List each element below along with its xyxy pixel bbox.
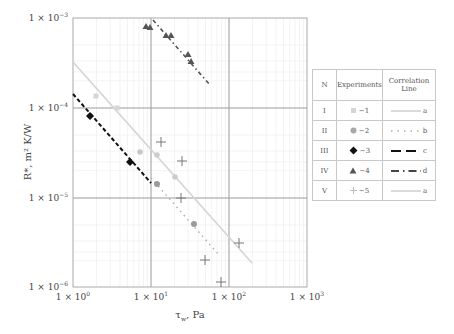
legend-n: III: [313, 141, 337, 161]
grid-major: [73, 18, 307, 287]
series-V-markers: [156, 137, 244, 287]
legend-n: II: [313, 121, 337, 141]
legend-experiment: −4: [337, 161, 383, 181]
legend-experiment: −3: [337, 141, 383, 161]
svg-text:1 × 10−3: 1 × 10−3: [29, 11, 68, 23]
dotted-line-icon: [391, 129, 421, 133]
square-marker-icon: [350, 107, 357, 114]
circle-marker-icon: [350, 127, 357, 134]
legend-line-label: b: [423, 127, 427, 135]
legend-exp-label: −3: [360, 147, 370, 155]
legend-exp-label: −2: [359, 127, 369, 135]
legend-line: c: [382, 141, 435, 161]
legend-n: IV: [313, 161, 337, 181]
legend-experiment: −2: [337, 121, 383, 141]
diamond-marker-icon: [349, 146, 358, 155]
triangle-marker-icon: [349, 167, 357, 174]
plot-frame: [73, 18, 307, 287]
legend-row: III −3 c: [313, 141, 436, 161]
legend-header-n: N: [313, 70, 337, 101]
legend-line-label: d: [423, 167, 427, 175]
svg-text:1 × 10−4: 1 × 10−4: [29, 101, 68, 113]
legend-line: a: [382, 181, 435, 201]
x-axis-label: τw, Pa: [175, 309, 204, 322]
legend-row: V −5 a: [313, 181, 436, 201]
svg-text:1 × 10−5: 1 × 10−5: [29, 191, 68, 203]
legend-line-label: c: [423, 147, 427, 155]
svg-text:1 × 102: 1 × 102: [212, 290, 246, 302]
correlation-line-II-b: [151, 178, 220, 256]
legend-line-label: a: [423, 187, 427, 195]
svg-text:1 × 10−6: 1 × 10−6: [29, 280, 68, 292]
legend-exp-label: −4: [359, 167, 369, 175]
y-tick-labels: 1 × 10−3 1 × 10−4 1 × 10−5 1 × 10−6: [29, 11, 68, 292]
series-IV-markers: [143, 23, 195, 64]
legend-table: N Experiments Correlation Line I −1 a II…: [312, 69, 436, 201]
grid-minor: [73, 18, 307, 287]
legend-header-experiments: Experiments: [337, 70, 383, 101]
legend-experiment: −5: [337, 181, 383, 201]
legend-experiment: −1: [337, 101, 383, 121]
legend-row: II −2 b: [313, 121, 436, 141]
legend-exp-label: −1: [359, 107, 369, 115]
dashed-line-icon: [391, 149, 421, 153]
legend-line: a: [382, 101, 435, 121]
legend-line: d: [382, 161, 435, 181]
svg-text:1 × 101: 1 × 101: [134, 290, 168, 302]
solid-line-icon: [391, 189, 421, 193]
svg-text:1 × 100: 1 × 100: [56, 290, 90, 302]
legend-n: V: [313, 181, 337, 201]
legend-exp-label: −5: [359, 187, 369, 195]
legend-line-label: a: [423, 107, 427, 115]
legend-row: IV −4 d: [313, 161, 436, 181]
solid-line-icon: [391, 109, 421, 113]
legend-header-row: N Experiments Correlation Line: [313, 70, 436, 101]
correlation-line-IV-d: [153, 20, 210, 85]
x-tick-labels: 1 × 100 1 × 101 1 × 102 1 × 103: [56, 290, 324, 302]
legend-header-correlation: Correlation Line: [382, 70, 435, 101]
y-axis-label: R*, m² K/W: [22, 123, 33, 180]
legend-n: I: [313, 101, 337, 121]
dash-dot-line-icon: [391, 169, 421, 173]
legend-row: I −1 a: [313, 101, 436, 121]
plus-marker-icon: [350, 187, 357, 194]
svg-text:1 × 103: 1 × 103: [290, 290, 324, 302]
legend-line: b: [382, 121, 435, 141]
